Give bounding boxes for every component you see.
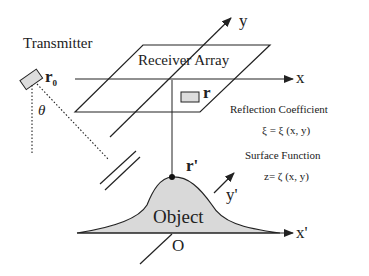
transmitter-beam-dotted (37, 84, 109, 160)
surface-function-label: Surface Function (245, 150, 320, 161)
receiver-position-label: r (203, 84, 211, 101)
surface-point-marker (169, 174, 175, 180)
y-axis-label: y (239, 12, 248, 29)
surface-formula: z= ζ (x, y) (264, 171, 309, 182)
origin-label: O (172, 237, 184, 254)
scattering-geometry-diagram: Transmitter r0 θ Receiver Array r x y Re… (0, 0, 369, 276)
angle-label: θ (38, 103, 45, 118)
transmitter-position-label: r0 (45, 68, 57, 88)
y-prime-axis-label: y' (226, 186, 238, 203)
y-axis (110, 18, 231, 137)
receiver-array-label: Receiver Array (138, 53, 229, 68)
x-prime-axis-label: x' (296, 224, 308, 241)
reflection-coefficient-label: Reflection Coefficient (230, 104, 328, 115)
x-axis-label: x (296, 69, 305, 86)
transmitter-icon (20, 69, 43, 89)
surface-point-label: r' (186, 157, 198, 174)
break-mark-2 (105, 157, 140, 190)
reflection-formula: ξ = ξ (x, y) (262, 125, 310, 136)
transmitter-position-subscript: 0 (53, 78, 58, 88)
transmitter-label: Transmitter (23, 36, 92, 51)
object-label: Object (153, 207, 204, 226)
transmitter-position-symbol: r (45, 67, 53, 86)
receiver-element-icon (181, 92, 199, 102)
origin-axis (140, 234, 172, 264)
